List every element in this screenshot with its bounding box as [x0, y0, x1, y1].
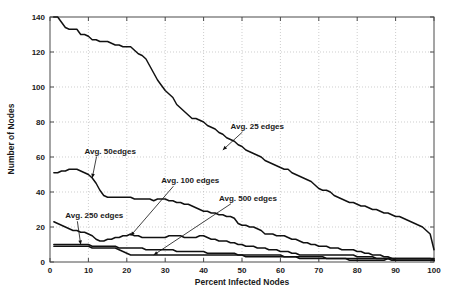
y-tick-label: 100 [32, 83, 46, 92]
chart-figure: 0102030405060708090100020406080100120140… [0, 0, 463, 296]
series-annotation-label: Avg. 250 edges [65, 211, 124, 220]
x-tick-label: 60 [276, 266, 285, 275]
x-tick-label: 30 [161, 266, 170, 275]
y-tick-label: 80 [36, 118, 45, 127]
y-tick-label: 120 [32, 48, 46, 57]
y-tick-label: 0 [41, 258, 46, 267]
x-tick-label: 80 [353, 266, 362, 275]
series-annotation-label: Avg. 500 edges [219, 194, 278, 203]
series-annotation-label: Avg. 50edges [85, 147, 137, 156]
x-tick-label: 40 [199, 266, 208, 275]
series-annotation-label: Avg. 100 edges [161, 176, 220, 185]
series-annotation-label: Avg. 25 edges [230, 122, 284, 131]
x-tick-label: 90 [391, 266, 400, 275]
y-tick-label: 20 [36, 223, 45, 232]
y-axis-label: Number of Nodes [6, 103, 16, 174]
line-chart: 0102030405060708090100020406080100120140… [0, 0, 463, 296]
y-tick-label: 40 [36, 188, 45, 197]
x-tick-label: 10 [84, 266, 93, 275]
x-tick-label: 100 [427, 266, 441, 275]
x-axis-label: Percent Infected Nodes [195, 277, 290, 287]
y-tick-label: 140 [32, 13, 46, 22]
x-tick-label: 0 [48, 266, 53, 275]
figure-background [0, 0, 463, 296]
x-tick-label: 20 [122, 266, 131, 275]
x-tick-label: 50 [238, 266, 247, 275]
y-tick-label: 60 [36, 153, 45, 162]
x-tick-label: 70 [314, 266, 323, 275]
